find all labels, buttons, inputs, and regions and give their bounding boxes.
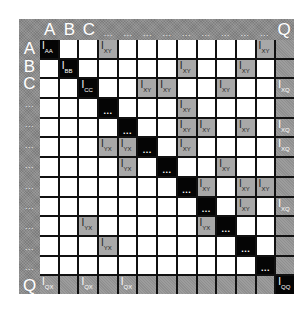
empty-block (198, 138, 216, 156)
empty-block (99, 257, 117, 275)
boundary-block (276, 178, 294, 196)
block-label: IQX (40, 276, 53, 290)
block-label-subscript: YX (202, 225, 210, 231)
block-label: IXY (257, 178, 270, 192)
block-label-subscript: XY (202, 127, 210, 133)
empty-block (178, 198, 196, 216)
block-label-subscript: QX (124, 284, 133, 290)
empty-block (119, 60, 137, 78)
empty-block (198, 158, 216, 176)
empty-block (40, 237, 58, 255)
empty-block (60, 198, 78, 216)
empty-block (158, 138, 176, 156)
block-label: IQX (119, 276, 132, 290)
empty-block (217, 60, 235, 78)
empty-block (40, 99, 58, 117)
empty-block (99, 178, 117, 196)
empty-block (79, 198, 97, 216)
block-label-subscript: XY (261, 48, 269, 54)
empty-block (40, 79, 58, 97)
empty-block (60, 79, 78, 97)
empty-block (178, 237, 196, 255)
coupling-block: IXY (217, 158, 235, 176)
block-label: IXQ (276, 138, 289, 152)
block-label-subscript: XY (183, 146, 191, 152)
boundary-block (276, 99, 294, 117)
block-label: IXY (138, 79, 151, 93)
coupling-block: IXY (178, 60, 196, 78)
empty-block (257, 138, 275, 156)
empty-block (158, 40, 176, 58)
empty-block (158, 237, 176, 255)
empty-block (178, 40, 196, 58)
empty-block (158, 119, 176, 137)
boundary-block (217, 276, 235, 294)
empty-block (257, 60, 275, 78)
block-label-subscript: XY (242, 206, 250, 212)
row-header: C (19, 75, 40, 92)
diagonal-block: ... (119, 119, 137, 137)
column-header: Q (274, 19, 294, 40)
empty-block (138, 217, 156, 235)
boundary-block (276, 217, 294, 235)
ellipsis-label: ... (222, 218, 231, 234)
block-label: IXQ (276, 198, 289, 212)
empty-block (60, 119, 78, 137)
block-label: IXY (237, 178, 250, 192)
boundary-block (276, 40, 294, 58)
block-label: IXQ (276, 79, 289, 93)
boundary-block (60, 276, 78, 294)
empty-block (60, 217, 78, 235)
empty-block (237, 158, 255, 176)
boundary-block (276, 60, 294, 78)
ellipsis-label: ... (162, 159, 171, 175)
boundary-block: IXQ (276, 138, 294, 156)
boundary-block (257, 276, 275, 294)
block-label-subscript: XY (143, 87, 151, 93)
empty-block (217, 257, 235, 275)
boundary-block: IQX (79, 276, 97, 294)
column-header: ... (157, 19, 177, 40)
block-label: IXY (99, 40, 112, 54)
empty-block (138, 178, 156, 196)
block-label: IYX (198, 217, 211, 231)
block-label: IYX (99, 237, 112, 251)
empty-block (119, 79, 137, 97)
empty-block (60, 178, 78, 196)
coupling-block: IXY (178, 119, 196, 137)
boundary-block: IXQ (276, 79, 294, 97)
empty-block (237, 217, 255, 235)
block-label: IXY (178, 99, 191, 113)
block-label: IXY (178, 60, 191, 74)
coupling-block: IXY (99, 40, 117, 58)
block-label: IQQ (276, 276, 290, 290)
empty-block (237, 257, 255, 275)
empty-block (99, 217, 117, 235)
coupling-block: IXY (237, 198, 255, 216)
empty-block (119, 40, 137, 58)
diagonal-block: IAA (40, 40, 58, 58)
column-header: ... (99, 19, 119, 40)
empty-block (40, 217, 58, 235)
column-header: ... (138, 19, 158, 40)
row-header: A (19, 40, 40, 57)
empty-block (119, 237, 137, 255)
empty-block (99, 158, 117, 176)
block-label: IXY (237, 198, 250, 212)
column-header: ... (235, 19, 255, 40)
empty-block (99, 79, 117, 97)
empty-block (40, 198, 58, 216)
block-label: IXY (198, 119, 211, 133)
diagonal-block: ... (99, 99, 117, 117)
block-label: IXY (217, 79, 230, 93)
empty-block (119, 178, 137, 196)
diagonal-block: IBB (60, 60, 78, 78)
empty-block (257, 119, 275, 137)
empty-block (79, 178, 97, 196)
diagonal-block: IQQ (276, 276, 294, 294)
boundary-block (198, 276, 216, 294)
empty-block (138, 99, 156, 117)
block-label-subscript: XQ (281, 127, 290, 133)
boundary-block: IXQ (276, 119, 294, 137)
empty-block (237, 40, 255, 58)
